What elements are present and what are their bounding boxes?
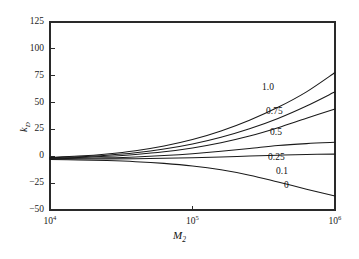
- y-tick-label: −25: [6, 178, 44, 188]
- x-axis-label-base: M: [173, 229, 182, 241]
- x-tick-label: 104: [32, 215, 68, 227]
- y-axis-label-subscript: D: [24, 122, 32, 127]
- curve-label-0-5: 0.5: [270, 128, 282, 138]
- y-tick-label: −50: [6, 205, 44, 215]
- y-tick-label: 50: [6, 98, 44, 108]
- x-tick-mantissa: 10: [44, 216, 54, 226]
- y-axis-label-base: k: [18, 127, 29, 132]
- y-tick-label: 100: [6, 44, 44, 54]
- data-curves-group: [50, 72, 335, 196]
- curve-label-0-1: 0.1: [276, 167, 288, 177]
- y-axis-label: kD: [18, 112, 32, 142]
- x-tick-exponent: 6: [338, 214, 341, 221]
- x-axis-label: M2: [0, 229, 359, 244]
- x-tick-exponent: 5: [196, 214, 199, 221]
- axis-frame: [50, 22, 335, 210]
- x-tick-label: 105: [175, 215, 211, 227]
- curve-label-0-75: 0.75: [266, 107, 283, 117]
- data-curve: [50, 160, 335, 197]
- curve-label-0: 0: [284, 181, 289, 191]
- curve-label-0-25: 0.25: [268, 153, 285, 163]
- curve-label-1-0: 1.0: [262, 83, 274, 93]
- y-tick-label: 0: [6, 151, 44, 161]
- x-tick-exponent: 4: [53, 214, 56, 221]
- x-tick-mantissa: 10: [329, 216, 339, 226]
- y-axis-label-wrapper: kD: [10, 118, 40, 136]
- y-tick-label: 125: [6, 17, 44, 27]
- axes-group: [50, 22, 335, 210]
- x-tick-label: 106: [317, 215, 353, 227]
- figure-container: −50−250255075100125 104105106 1.00.750.5…: [0, 0, 359, 259]
- x-tick-mantissa: 10: [186, 216, 196, 226]
- x-axis-label-subscript: 2: [182, 235, 186, 244]
- data-curve: [50, 109, 335, 158]
- y-tick-label: 75: [6, 71, 44, 81]
